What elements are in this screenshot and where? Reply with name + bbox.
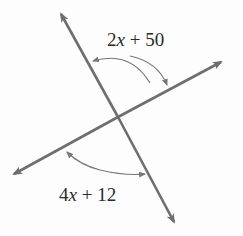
top-angle-arc	[93, 56, 167, 85]
vertical-angles-diagram: 2x + 50 4x + 12	[0, 0, 243, 236]
bottom-angle-arc	[67, 152, 145, 175]
line-two	[14, 62, 221, 174]
top-angle-label: 2x + 50	[107, 29, 164, 51]
bottom-angle-label: 4x + 12	[59, 184, 116, 206]
